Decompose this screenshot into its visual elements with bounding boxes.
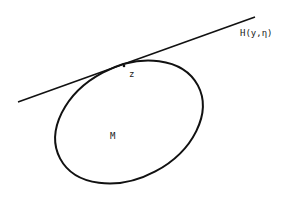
region-ellipse [34, 36, 224, 197]
line-label: H(y,η) [240, 29, 273, 38]
region-label: M [110, 132, 115, 141]
tangent-point [123, 65, 126, 68]
point-label: z [129, 70, 134, 79]
tangent-line [18, 17, 255, 102]
